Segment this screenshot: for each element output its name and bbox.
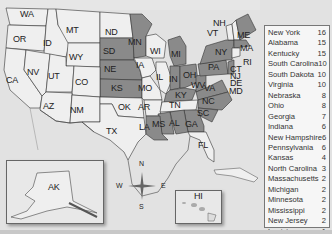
legend-state-count: 6 — [322, 143, 327, 153]
legend-state-count: 3 — [322, 164, 327, 174]
legend-state-name: South Dakota — [268, 70, 314, 80]
state-label-wy: WY — [69, 52, 83, 62]
legend-row: Alabama15 — [268, 38, 327, 48]
state-label-tx: TX — [106, 126, 117, 136]
state-label-ia: IA — [136, 60, 144, 70]
legend-state-count: 2 — [322, 206, 327, 216]
state-label-in: IN — [169, 74, 178, 84]
legend-state-name: Pennsylvania — [268, 143, 313, 153]
legend-row: Kentucky15 — [268, 49, 327, 59]
state-label-nv: NV — [27, 67, 39, 77]
legend-row: New Jersey2 — [268, 216, 327, 226]
legend-row: Virginia10 — [268, 80, 327, 90]
state-label-or: OR — [13, 34, 26, 44]
state-label-nc: NC — [202, 96, 215, 106]
legend-row: Michigan2 — [268, 185, 327, 195]
state-label-vt: VT — [207, 28, 218, 38]
state-label-ma: MA — [240, 43, 253, 53]
state-label-mn: MN — [128, 37, 142, 47]
legend-state-name: New Jersey — [268, 216, 308, 226]
legend-row: Pennsylvania6 — [268, 143, 327, 153]
bottom-edge — [0, 230, 332, 234]
legend-row: South Dakota10 — [268, 70, 327, 80]
compass-north: N — [139, 160, 144, 167]
compass-south: S — [139, 203, 143, 210]
legend-state-count: 10 — [318, 59, 327, 69]
legend-state-count: 16 — [318, 28, 327, 38]
legend-state-count: 6 — [322, 133, 327, 143]
state-label-mi: MI — [171, 49, 181, 59]
legend-state-name: New Hampshire — [268, 133, 322, 143]
legend-state-name: Kentucky — [268, 49, 299, 59]
us-map-figure: N S E W WAORIDMTWYNDSDNEKSNVUTCOCAAZNMOK… — [0, 0, 332, 234]
compass-east: E — [161, 182, 165, 189]
legend-state-name: Minnesota — [268, 195, 303, 205]
legend-state-name: South Carolina — [268, 59, 318, 69]
legend-state-name: New York — [268, 28, 300, 38]
legend-state-count: 4 — [322, 153, 327, 163]
state-label-ms: MS — [152, 119, 165, 129]
state-label-ri: RI — [243, 57, 252, 67]
legend-state-count: 8 — [322, 101, 327, 111]
state-label-sd: SD — [103, 46, 115, 56]
compass-west: W — [116, 182, 122, 189]
legend-state-count: 15 — [318, 38, 327, 48]
legend-state-count: 7 — [322, 112, 327, 122]
legend-state-name: Indiana — [268, 122, 293, 132]
state-label-nm: NM — [70, 105, 84, 115]
state-count-legend: New York16Alabama15Kentucky15South Carol… — [264, 25, 330, 228]
legend-row: Georgia7 — [268, 112, 327, 122]
legend-state-name: Michigan — [268, 185, 298, 195]
state-ct — [232, 48, 240, 58]
state-label-nd: ND — [105, 27, 118, 37]
legend-state-name: Massachusetts — [268, 174, 319, 184]
state-label-ga: GA — [185, 119, 198, 129]
legend-row: South Carolina10 — [268, 59, 327, 69]
legend-row: New Hampshire6 — [268, 133, 327, 143]
state-label-al: AL — [169, 118, 180, 128]
state-label-mo: MO — [138, 83, 152, 93]
state-label-mt: MT — [66, 25, 79, 35]
legend-row: Ohio8 — [268, 101, 327, 111]
legend-state-name: Alabama — [268, 38, 298, 48]
state-label-il: IL — [156, 72, 163, 82]
state-label-ne: NE — [104, 64, 116, 74]
state-label-sc: SC — [197, 108, 209, 118]
legend-state-count: 10 — [318, 80, 327, 90]
legend-state-name: Nebraska — [268, 91, 301, 101]
state-label-fl: FL — [198, 140, 208, 150]
legend-row: New York16 — [268, 28, 327, 38]
state-label-co: CO — [75, 77, 88, 87]
legend-state-count: 2 — [322, 174, 327, 184]
state-label-hi: HI — [194, 191, 203, 201]
legend-state-count: 6 — [322, 122, 327, 132]
state-label-ks: KS — [111, 83, 123, 93]
state-label-ar: AR — [138, 102, 150, 112]
state-label-pa: PA — [208, 62, 219, 72]
legend-row: Kansas4 — [268, 153, 327, 163]
alaska-inset — [6, 160, 104, 224]
state-label-wv: WV — [191, 80, 205, 90]
state-label-ny: NY — [215, 47, 227, 57]
compass-rose-icon — [124, 168, 160, 204]
legend-state-name: Ohio — [268, 101, 284, 111]
state-label-md: MD — [229, 86, 243, 96]
legend-state-count: 2 — [322, 195, 327, 205]
legend-row: Minnesota2 — [268, 195, 327, 205]
legend-row: Indiana6 — [268, 122, 327, 132]
legend-state-name: Virginia — [268, 80, 293, 90]
state-label-ut: UT — [48, 71, 60, 81]
legend-row: Mississippi2 — [268, 206, 327, 216]
state-label-ok: OK — [118, 102, 131, 112]
state-label-oh: OH — [183, 70, 196, 80]
state-label-wa: WA — [20, 9, 34, 19]
legend-state-count: 8 — [322, 91, 327, 101]
legend-state-name: Kansas — [268, 153, 293, 163]
legend-state-count: 2 — [322, 216, 327, 226]
state-label-az: AZ — [43, 101, 54, 111]
state-label-wi: WI — [150, 46, 161, 56]
state-label-ak: AK — [48, 182, 60, 192]
state-label-tn: TN — [169, 100, 181, 110]
legend-row: Nebraska8 — [268, 91, 327, 101]
state-label-nh: NH — [213, 18, 226, 28]
